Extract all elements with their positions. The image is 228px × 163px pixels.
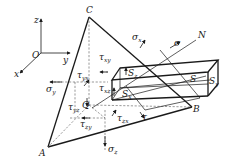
x-axis-label: x xyxy=(14,69,19,79)
tau-yz-label: τyz xyxy=(68,102,80,114)
vertex-B-label: B xyxy=(192,104,200,114)
vertex-C-label: C xyxy=(86,5,93,15)
stress-tetrahedron-diagram: z y x O C A B Q xyxy=(0,0,228,163)
area-S-label: S xyxy=(190,74,196,84)
origin-label: O xyxy=(32,50,40,60)
area-Sz-label: Sz xyxy=(128,68,138,79)
tau-zx-arrow xyxy=(112,110,116,116)
vertex-Q-label: Q xyxy=(82,100,90,110)
tau-zy-label: τzy xyxy=(80,119,92,131)
tau-label: τ xyxy=(142,112,148,122)
sigma-y-label: σy xyxy=(46,84,56,96)
y-axis-label: y xyxy=(62,55,69,65)
tau-yx-label: τyx xyxy=(77,70,89,82)
sigma-label: σ xyxy=(174,38,181,48)
normal-N-label: N xyxy=(197,30,207,40)
tau-xy-label: τxy xyxy=(99,52,111,64)
sigma-z-label: σz xyxy=(108,144,118,155)
tau-zx-label: τzx xyxy=(117,113,129,124)
coordinate-axes: z y x O xyxy=(14,15,70,79)
tau-xz-label: τxz xyxy=(99,83,111,94)
vertex-A-label: A xyxy=(38,148,46,158)
edge-QB-hidden xyxy=(89,105,192,107)
tetrahedron: C A B Q xyxy=(38,5,200,158)
area-Sx-label: Sx xyxy=(122,89,132,100)
z-axis-label: z xyxy=(33,15,39,25)
sigma-x-label: σx xyxy=(132,32,142,43)
